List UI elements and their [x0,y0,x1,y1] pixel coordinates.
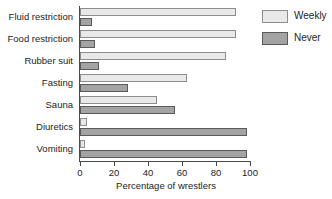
x-axis-tick [148,162,149,166]
x-axis-tick-label: 100 [230,167,270,178]
bar-weekly [80,30,236,39]
bar-never [80,62,99,71]
category-label: Fluid restriction [0,12,73,22]
category-label: Rubber suit [0,56,73,66]
legend-label-never: Never [294,31,321,45]
x-axis-tick [250,162,251,166]
bar-never [80,40,95,49]
bar-never [80,18,92,27]
bar-weekly [80,8,236,17]
category-label: Food restriction [0,34,73,44]
x-axis-tick [114,162,115,166]
bar-weekly [80,96,157,105]
bar-never [80,84,128,93]
chart-legend: Weekly Never [262,8,332,52]
bar-never [80,106,175,115]
category-label: Fasting [0,78,73,88]
category-axis-labels: Fluid restriction Food restriction Rubbe… [0,6,76,160]
category-label: Sauna [0,100,73,110]
legend-swatch-never [262,32,288,45]
bar-never [80,150,247,159]
legend-swatch-weekly [262,10,288,23]
legend-item-weekly: Weekly [262,8,332,27]
category-label: Diuretics [0,122,73,132]
x-axis-title: Percentage of wrestlers [60,180,272,191]
legend-label-weekly: Weekly [294,9,327,23]
bar-weekly [80,118,87,127]
x-axis-tick [216,162,217,166]
horizontal-bar-chart: Fluid restriction Food restriction Rubbe… [0,0,332,199]
legend-item-never: Never [262,30,332,49]
x-axis-tick [80,162,81,166]
plot-area: 0 20 40 60 80 100 [80,6,250,160]
x-axis-line [79,161,251,162]
bar-weekly [80,140,85,149]
bar-never [80,128,247,137]
x-axis-tick [182,162,183,166]
bar-weekly [80,52,226,61]
category-label: Vomiting [0,144,73,154]
bar-weekly [80,74,187,83]
